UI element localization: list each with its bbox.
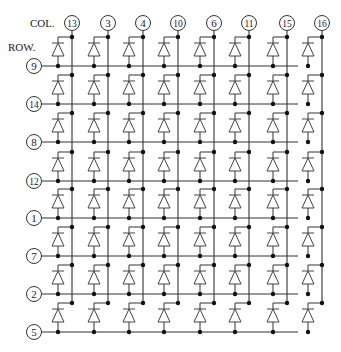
led-diode-icon	[194, 263, 216, 296]
led-diode-icon	[194, 225, 216, 258]
led-diode-icon	[88, 150, 110, 183]
column-pin-16: 16	[315, 16, 330, 304]
led-diode-icon	[194, 73, 216, 106]
led-diode-icon	[158, 263, 180, 296]
led-diode-icon	[52, 111, 74, 144]
led-diode-icon	[123, 35, 145, 68]
column-pin-4: 4	[136, 16, 151, 304]
led-diode-icon	[267, 73, 289, 106]
column-pin-10: 10	[171, 16, 186, 304]
led-diode-icon	[123, 187, 145, 220]
column-pin-label: 10	[173, 19, 183, 29]
led-diode-icon	[158, 301, 180, 334]
led-diode-icon	[302, 35, 324, 68]
row-pin-label: 5	[31, 326, 37, 338]
led-diode-icon	[88, 301, 110, 334]
column-pin-label: 6	[211, 17, 217, 29]
led-diode-icon	[52, 225, 74, 258]
column-pin-label: 15	[282, 19, 292, 29]
led-diode-icon	[123, 263, 145, 296]
led-diode-icon	[229, 35, 251, 68]
led-diode-icon	[88, 263, 110, 296]
led-diode-icon	[229, 111, 251, 144]
led-diode-icon	[229, 263, 251, 296]
row-pin-label: 9	[31, 60, 37, 72]
column-pin-13: 13	[65, 16, 80, 304]
led-diode-icon	[123, 225, 145, 258]
led-diode-icon	[88, 111, 110, 144]
led-diode-icon	[158, 225, 180, 258]
led-diode-icon	[88, 73, 110, 106]
row-pin-label: 8	[31, 136, 37, 148]
led-matrix-schematic: 13341061115169148121725	[0, 0, 341, 352]
led-diode-icon	[123, 301, 145, 334]
led-diode-icon	[302, 111, 324, 144]
led-diode-icon	[302, 73, 324, 106]
led-diode-icon	[158, 187, 180, 220]
led-diode-icon	[158, 35, 180, 68]
led-diode-icon	[302, 225, 324, 258]
led-diode-icon	[52, 263, 74, 296]
led-diode-icon	[158, 73, 180, 106]
led-diode-icon	[158, 150, 180, 183]
led-diode-icon	[52, 150, 74, 183]
led-diode-icon	[52, 73, 74, 106]
led-diode-icon	[302, 301, 324, 334]
led-diode-icon	[267, 301, 289, 334]
row-pin-label: 14	[29, 100, 39, 110]
led-diode-icon	[229, 73, 251, 106]
row-pin-label: 1	[31, 212, 37, 224]
led-diode-icon	[123, 111, 145, 144]
column-pin-15: 15	[280, 16, 295, 304]
column-pin-label: 16	[317, 19, 327, 29]
led-diode-icon	[123, 73, 145, 106]
column-pin-label: 3	[105, 17, 111, 29]
led-diode-icon	[194, 301, 216, 334]
led-diode-icon	[194, 111, 216, 144]
led-diode-icon	[52, 35, 74, 68]
column-pin-label: 11	[244, 19, 253, 29]
column-pin-label: 13	[67, 19, 77, 29]
led-diode-icon	[158, 111, 180, 144]
led-diode-icon	[267, 225, 289, 258]
led-diode-icon	[267, 35, 289, 68]
led-diode-icon	[88, 225, 110, 258]
column-pin-6: 6	[207, 16, 222, 304]
column-pin-11: 11	[242, 16, 257, 304]
led-diode-icon	[267, 187, 289, 220]
led-diode-icon	[302, 263, 324, 296]
row-pin-label: 12	[29, 177, 39, 187]
row-pin-label: 2	[31, 288, 37, 300]
led-diode-icon	[302, 150, 324, 183]
led-diode-icon	[229, 225, 251, 258]
led-diode-icon	[88, 35, 110, 68]
led-diode-icon	[88, 187, 110, 220]
row-pin-label: 7	[31, 250, 37, 262]
led-diode-icon	[194, 150, 216, 183]
led-diode-icon	[194, 35, 216, 68]
led-diode-icon	[123, 150, 145, 183]
led-diode-icon	[229, 301, 251, 334]
column-pin-3: 3	[101, 16, 116, 304]
led-diode-icon	[267, 111, 289, 144]
led-diode-icon	[229, 187, 251, 220]
led-diode-icon	[267, 150, 289, 183]
led-diode-icon	[267, 263, 289, 296]
led-diode-icon	[229, 150, 251, 183]
led-diode-icon	[52, 187, 74, 220]
led-diode-icon	[52, 301, 74, 334]
led-diode-icon	[302, 187, 324, 220]
column-pin-label: 4	[140, 17, 146, 29]
led-diode-icon	[194, 187, 216, 220]
